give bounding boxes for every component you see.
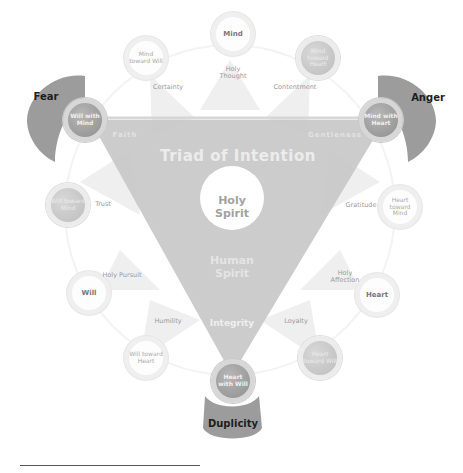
emotion-anger: Anger — [411, 92, 445, 104]
node-mind-with-heart: Mind with Heart — [359, 98, 403, 142]
virtue-holy-thought: Holy Thought — [213, 66, 253, 81]
node-will-with-mind: Will with Mind — [63, 98, 107, 142]
node-mind: Mind — [211, 12, 255, 56]
virtue-holy-affection: Holy Affection — [323, 270, 367, 285]
node-heart-toward-will: Heart toward Will — [298, 336, 342, 380]
virtue-loyalty: Loyalty — [284, 318, 308, 325]
node-will-toward-mind: Will toward Mind — [46, 183, 90, 227]
node-mind-toward-will: Mind toward Will — [124, 36, 168, 80]
virtue-gratitude: Gratitude — [346, 202, 377, 209]
node-heart-with-will: Heart with Will — [211, 359, 255, 403]
virtue-trust: Trust — [95, 201, 111, 208]
virtue-contentment: Contentment — [274, 84, 317, 91]
human-spirit-label: Human Spirit — [202, 255, 262, 280]
node-will-toward-heart: Will toward Heart — [124, 336, 168, 380]
node-mind-toward-heart: Mind toward Heart — [296, 36, 340, 80]
triad-title: Triad of Intention — [160, 148, 316, 165]
triad-diagram: Fear Anger Duplicity Triad of Intention … — [0, 0, 463, 473]
corner-label-faith: Faith — [113, 131, 138, 139]
corner-label-integrity: Integrity — [210, 318, 254, 328]
emotion-duplicity: Duplicity — [208, 418, 258, 430]
node-heart-toward-mind: Heart toward Mind — [378, 185, 422, 229]
footnote-rule — [20, 465, 200, 466]
virtue-humility: Humility — [154, 318, 181, 325]
emotion-fear: Fear — [34, 91, 59, 103]
virtue-holy-pursuit: Holy Pursuit — [102, 272, 142, 279]
holy-spirit-label: Holy Spirit — [207, 195, 257, 220]
virtue-certainty: Certainty — [153, 84, 183, 91]
corner-label-gentleness: Gentleness — [308, 131, 362, 139]
